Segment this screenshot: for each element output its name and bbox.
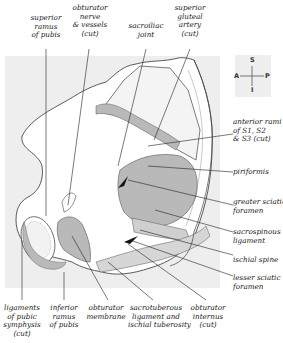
compass-superior: S bbox=[250, 56, 255, 64]
label-greater-sciatic-foramen: greater sciaticforamen bbox=[233, 198, 283, 215]
label-superior-gluteal-artery: superiorglutealartery(cut) bbox=[170, 4, 210, 38]
label-sacroiliac-joint: sacroiliacjoint bbox=[124, 22, 168, 39]
label-inferior-ramus: inferiorramusof pubis bbox=[46, 304, 82, 330]
compass-anterior: A bbox=[234, 72, 239, 80]
label-lesser-sciatic-foramen: lesser sciaticforamen bbox=[233, 274, 280, 291]
label-obturator-nerve: obturatornerve& vessels(cut) bbox=[70, 4, 110, 38]
label-obturator-internus: obturatorinternus(cut) bbox=[188, 304, 228, 330]
label-sacrospinous-ligament: sacrospinousligament bbox=[233, 228, 281, 245]
label-ligaments-pubic-symphysis: ligamentsof pubicsymphysis(cut) bbox=[2, 304, 42, 338]
label-ischial-spine: ischial spine bbox=[233, 256, 278, 265]
label-superior-ramus: superiorramusof pubis bbox=[26, 14, 66, 40]
label-sacrotuberous-ligament: sacrotuberousligament andischial tuberos… bbox=[128, 304, 184, 330]
compass-posterior: P bbox=[265, 72, 270, 80]
label-obturator-membrane: obturatormembrane bbox=[86, 304, 126, 321]
label-anterior-rami: anterior ramiof S1, S2& S3 (cut) bbox=[233, 118, 282, 144]
label-piriformis: piriformis bbox=[233, 168, 269, 177]
orientation-compass bbox=[240, 66, 264, 86]
compass-inferior: I bbox=[251, 86, 253, 94]
